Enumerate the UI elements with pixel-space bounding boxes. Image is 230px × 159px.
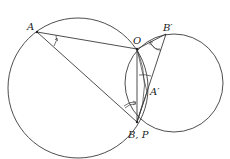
arc-O-B <box>137 49 145 122</box>
geometry-diagram: A O B′ A′ B, P <box>0 0 230 159</box>
segment-A-O <box>37 32 137 49</box>
point-BP <box>136 121 138 123</box>
label-Aprime: A′ <box>149 86 160 97</box>
point-A <box>36 31 38 33</box>
angle-marker-A <box>54 35 57 46</box>
right-circle <box>125 34 223 132</box>
segment-A-B <box>37 32 137 122</box>
label-O: O <box>133 35 141 46</box>
angle-marker-O <box>139 75 151 76</box>
point-O <box>136 48 138 50</box>
label-Bprime: B′ <box>162 22 173 33</box>
label-BP: B, P <box>127 129 149 140</box>
label-A: A <box>26 21 34 32</box>
angle-marker-Bprime-2 <box>151 44 160 49</box>
